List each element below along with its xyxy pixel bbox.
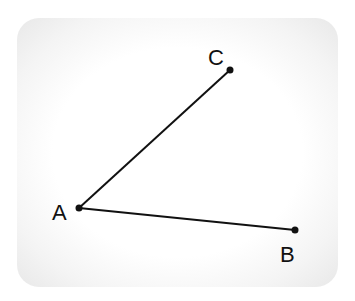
segment-ab: [79, 208, 295, 230]
label-c: C: [208, 45, 224, 70]
point-a: [76, 205, 83, 212]
label-a: A: [52, 200, 67, 225]
label-b: B: [280, 242, 295, 267]
angle-diagram: A B C: [0, 0, 355, 301]
point-c: [227, 67, 234, 74]
point-b: [292, 227, 299, 234]
segment-ac: [79, 70, 230, 208]
